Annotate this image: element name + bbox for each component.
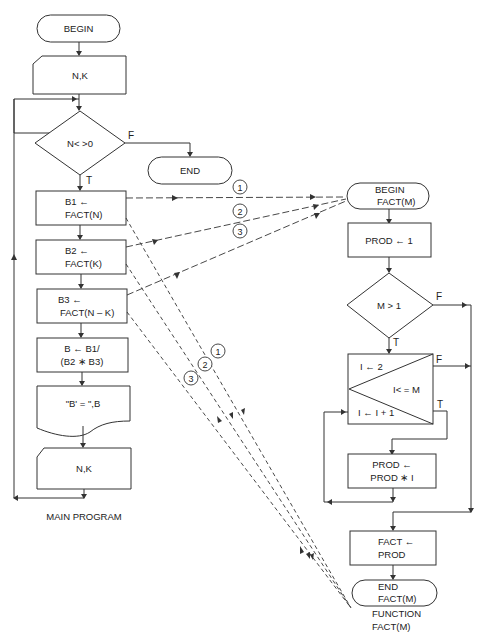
svg-text:3: 3 bbox=[188, 374, 193, 384]
main-b1-line1: B1 ← bbox=[65, 196, 89, 207]
main-b1-box: B1 ← FACT(N) bbox=[36, 191, 126, 225]
func-body-line1: PROD ← bbox=[372, 459, 412, 470]
main-input-label: N,K bbox=[72, 70, 89, 81]
func-loop-true-label: T bbox=[437, 399, 443, 410]
func-caption-line1: FUNCTION bbox=[372, 608, 421, 619]
svg-text:1: 1 bbox=[215, 347, 220, 357]
call-label-3: 3 bbox=[233, 224, 247, 238]
main-calc-line1: B ← B1/ bbox=[64, 343, 100, 354]
func-loop-cond: I< = M bbox=[393, 384, 420, 395]
func-loop-box: I ← 2 I< = M I ← I + 1 bbox=[348, 354, 433, 424]
func-end-terminator: END FACT(M) bbox=[352, 580, 437, 606]
call-label-1: 1 bbox=[233, 180, 247, 194]
main-b2-line2: FACT(K) bbox=[65, 258, 102, 269]
main-b2-box: B2 ← FACT(K) bbox=[36, 240, 126, 274]
main-calc-box: B ← B1/ (B2 ∗ B3) bbox=[37, 338, 128, 372]
main-end-terminator: END bbox=[148, 157, 232, 184]
func-assign-line2: PROD bbox=[378, 549, 406, 560]
main-input2-label: N,K bbox=[76, 463, 93, 474]
main-b3-line1: B3 ← bbox=[58, 294, 82, 305]
func-body-box: PROD ← PROD ∗ I bbox=[348, 454, 436, 488]
svg-text:3: 3 bbox=[237, 227, 242, 237]
return-label-3: 3 bbox=[184, 371, 198, 385]
call-label-2: 2 bbox=[233, 204, 247, 218]
main-decision-diamond: N< >0 bbox=[35, 111, 125, 175]
main-program-caption: MAIN PROGRAM bbox=[46, 511, 122, 522]
func-begin-line2: FACT(M) bbox=[377, 196, 416, 207]
func-loop-init: I ← 2 bbox=[360, 361, 383, 372]
main-decision-false-label: F bbox=[128, 130, 134, 141]
func-decision-true-label: T bbox=[393, 337, 399, 348]
main-input2-box: N,K bbox=[37, 448, 131, 489]
func-assign-line1: FACT ← bbox=[378, 536, 414, 547]
func-end-line2: FACT(M) bbox=[378, 593, 417, 604]
func-init-box: PROD ← 1 bbox=[348, 223, 431, 257]
svg-text:2: 2 bbox=[237, 207, 242, 217]
func-begin-line1: BEGIN bbox=[375, 184, 405, 195]
svg-text:1: 1 bbox=[237, 183, 242, 193]
main-b1-line2: FACT(N) bbox=[65, 209, 102, 220]
func-caption-line2: FACT(M) bbox=[372, 621, 411, 632]
func-decision-label: M > 1 bbox=[377, 300, 401, 311]
main-b3-box: B3 ← FACT(N – K) bbox=[37, 289, 127, 323]
func-body-line2: PROD ∗ I bbox=[370, 472, 413, 483]
main-decision-label: N< >0 bbox=[67, 138, 93, 149]
func-loop-incr: I ← I + 1 bbox=[358, 407, 394, 418]
main-begin-terminator: BEGIN bbox=[37, 15, 120, 42]
svg-text:2: 2 bbox=[202, 360, 207, 370]
flowchart-svg: BEGIN N,K N< >0 F END T B1 ← FACT(N) B2 … bbox=[0, 0, 482, 636]
return-arrows bbox=[126, 218, 351, 608]
func-begin-terminator: BEGIN FACT(M) bbox=[347, 183, 429, 209]
main-b3-line2: FACT(N – K) bbox=[60, 307, 114, 318]
func-loop-false-label: F bbox=[436, 354, 442, 365]
func-end-line1: END bbox=[378, 581, 398, 592]
return-label-2: 2 bbox=[198, 357, 212, 371]
flowchart-canvas: BEGIN N,K N< >0 F END T B1 ← FACT(N) B2 … bbox=[0, 0, 482, 636]
return-label-1: 1 bbox=[211, 344, 225, 358]
main-output-label: "B' = ",B bbox=[66, 398, 101, 409]
func-decision-diamond: M > 1 bbox=[347, 273, 433, 338]
main-decision-true-label: T bbox=[86, 175, 92, 186]
main-end-label: END bbox=[180, 165, 200, 176]
main-b2-line1: B2 ← bbox=[65, 245, 89, 256]
main-input-box: N,K bbox=[33, 56, 126, 94]
func-init-label: PROD ← 1 bbox=[365, 235, 413, 246]
main-calc-line2: (B2 ∗ B3) bbox=[61, 356, 104, 367]
func-assign-box: FACT ← PROD bbox=[350, 531, 436, 565]
func-decision-false-label: F bbox=[436, 291, 442, 302]
main-begin-label: BEGIN bbox=[64, 23, 94, 34]
